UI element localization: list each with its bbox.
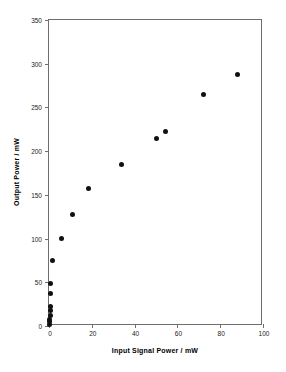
data-point bbox=[59, 236, 64, 241]
y-tick: 250 bbox=[45, 107, 49, 108]
plot-area: 050100150200250300350 020406080100 bbox=[48, 19, 262, 325]
y-tick: 100 bbox=[45, 239, 49, 240]
scatter-chart-figure: 050100150200250300350 020406080100 Outpu… bbox=[0, 0, 286, 372]
data-point bbox=[48, 291, 53, 296]
x-axis-title: Input Signal Power / mW bbox=[112, 347, 198, 354]
y-tick: 150 bbox=[45, 195, 49, 196]
y-tick: 350 bbox=[45, 20, 49, 21]
y-tick-label: 50 bbox=[35, 280, 42, 287]
x-tick-label: 20 bbox=[89, 331, 96, 338]
data-point bbox=[48, 281, 53, 286]
y-tick-label: 150 bbox=[31, 193, 42, 200]
y-tick-label: 350 bbox=[31, 18, 42, 25]
data-point bbox=[50, 258, 55, 263]
x-tick: 80 bbox=[220, 324, 221, 328]
data-point bbox=[119, 162, 124, 167]
x-tick-label: 60 bbox=[175, 331, 182, 338]
y-tick-label: 0 bbox=[38, 324, 42, 331]
y-tick: 200 bbox=[45, 151, 49, 152]
y-tick: 300 bbox=[45, 64, 49, 65]
data-point bbox=[48, 313, 53, 318]
x-tick: 40 bbox=[135, 324, 136, 328]
x-tick-label: 100 bbox=[259, 331, 270, 338]
x-tick-label: 40 bbox=[132, 331, 139, 338]
data-point bbox=[86, 186, 91, 191]
data-point bbox=[70, 212, 75, 217]
y-tick-label: 300 bbox=[31, 61, 42, 68]
y-tick-label: 100 bbox=[31, 236, 42, 243]
x-tick: 60 bbox=[177, 324, 178, 328]
data-point bbox=[235, 72, 240, 77]
x-tick-label: 0 bbox=[48, 331, 52, 338]
y-tick-label: 250 bbox=[31, 105, 42, 112]
data-point bbox=[154, 136, 159, 141]
x-tick: 20 bbox=[92, 324, 93, 328]
data-point bbox=[201, 92, 206, 97]
data-point bbox=[163, 129, 168, 134]
x-tick-label: 80 bbox=[218, 331, 225, 338]
y-axis-title: Output Power / mW bbox=[13, 138, 20, 206]
x-tick: 100 bbox=[263, 324, 264, 328]
y-tick-label: 200 bbox=[31, 149, 42, 156]
